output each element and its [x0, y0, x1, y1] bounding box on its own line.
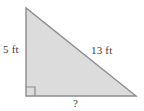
- horizontal-leg-label: ?: [73, 97, 78, 109]
- triangle-shape: [26, 8, 136, 96]
- hypotenuse-label: 13 ft: [91, 44, 112, 56]
- vertical-leg-label: 5 ft: [3, 43, 19, 55]
- geometry-figure: 5 ft 13 ft ?: [0, 0, 144, 111]
- right-triangle-graphic: [0, 0, 144, 111]
